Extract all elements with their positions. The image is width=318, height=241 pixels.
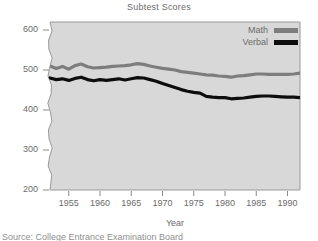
legend-label-verbal: Verbal bbox=[222, 38, 268, 47]
plot-background bbox=[48, 22, 300, 190]
x-tick-label-1960: 1960 bbox=[83, 199, 117, 208]
chart-title: Subtest Scores bbox=[0, 2, 318, 12]
legend-swatch-verbal bbox=[274, 40, 298, 45]
x-tick-label-1985: 1985 bbox=[239, 199, 273, 208]
x-axis-ticks bbox=[69, 191, 288, 196]
x-tick-label-1970: 1970 bbox=[146, 199, 180, 208]
x-tick-label-1975: 1975 bbox=[177, 199, 211, 208]
x-tick-label-1965: 1965 bbox=[114, 199, 148, 208]
source-note: Source: College Entrance Examination Boa… bbox=[0, 233, 318, 241]
x-axis-title: Year bbox=[50, 218, 300, 228]
legend-label-math: Math bbox=[222, 26, 268, 35]
legend-swatch-math bbox=[274, 28, 298, 33]
y-tick-label-200: 200 bbox=[12, 185, 38, 194]
y-tick-label-400: 400 bbox=[12, 105, 38, 114]
y-tick-label-600: 600 bbox=[12, 25, 38, 34]
x-tick-label-1955: 1955 bbox=[52, 199, 86, 208]
source-note-text: Source: College Entrance Examination Boa… bbox=[0, 233, 318, 241]
y-tick-label-300: 300 bbox=[12, 145, 38, 154]
y-tick-label-500: 500 bbox=[12, 65, 38, 74]
chart-container: Subtest Scores 200300400500600 195519601… bbox=[0, 0, 318, 241]
x-tick-label-1980: 1980 bbox=[208, 199, 242, 208]
x-tick-label-1990: 1990 bbox=[271, 199, 305, 208]
